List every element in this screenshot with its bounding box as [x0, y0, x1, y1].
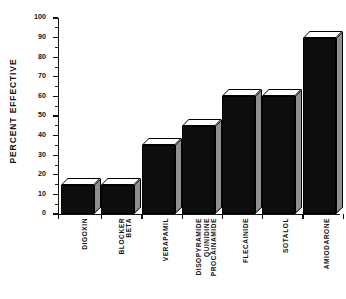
x-label-line: QUINIDINE [203, 218, 210, 257]
x-label-amiodarone: AMIODARONE [320, 218, 330, 298]
x-label-digoxin: DIGOXIN [78, 218, 88, 298]
y-minor-tick [55, 125, 58, 126]
bar-front-face [182, 126, 215, 214]
y-minor-tick [55, 86, 58, 87]
y-tick-60: 60 [53, 96, 58, 97]
bar-side-face [295, 90, 302, 214]
bar [182, 119, 215, 214]
bar-top-face [182, 119, 222, 126]
bar [222, 89, 255, 214]
x-label-beta: BETABLOCKER [114, 218, 132, 298]
y-minor-tick [55, 106, 58, 107]
bar-side-face [255, 90, 262, 214]
bar [101, 178, 134, 214]
x-label-line: BLOCKER [118, 218, 125, 254]
y-tick-label: 100 [34, 14, 46, 21]
x-tick-6 [343, 214, 344, 219]
y-axis-title-container: PERCENT EFFECTIVE [0, 0, 26, 222]
bar-side-face [175, 139, 182, 214]
y-tick-label: 20 [38, 171, 46, 178]
bar-top-face [101, 178, 141, 185]
bar-side-face [215, 119, 222, 214]
y-minor-tick [55, 67, 58, 68]
x-label-line: DIGOXIN [81, 218, 88, 250]
bar-chart-figure: PERCENT EFFECTIVE 0102030405060708090100… [0, 0, 346, 299]
x-label-sotalol: SOTALOL [279, 218, 289, 298]
y-tick-label: 0 [42, 210, 46, 217]
y-tick-70: 70 [53, 76, 58, 77]
bar-front-face [101, 185, 134, 214]
y-tick-label: 30 [38, 151, 46, 158]
bar-front-face [303, 38, 336, 214]
y-minor-tick [55, 27, 58, 28]
y-tick-10: 10 [53, 194, 58, 195]
y-minor-tick [55, 165, 58, 166]
x-label-line: PROCAINAMIDE [210, 218, 217, 276]
plot-area: 0102030405060708090100 [58, 18, 340, 215]
y-minor-tick [55, 184, 58, 185]
bar [303, 31, 336, 214]
x-axis-category-labels: DIGOXINBETABLOCKERVERAPAMILPROCAINAMIDEQ… [58, 218, 340, 299]
bar [142, 138, 175, 214]
y-minor-tick [55, 204, 58, 205]
y-tick-label: 10 [38, 190, 46, 197]
bar [61, 178, 94, 214]
y-tick-80: 80 [53, 57, 58, 58]
x-label-procainamide: PROCAINAMIDEQUINIDINEDISOPYRAMIDE [190, 218, 217, 298]
x-label-verapamil: VERAPAMIL [159, 218, 169, 298]
y-minor-tick [55, 47, 58, 48]
bar-front-face [262, 96, 295, 214]
x-label-line: SOTALOL [282, 218, 289, 253]
y-tick-30: 30 [53, 155, 58, 156]
bar [262, 89, 295, 214]
y-tick-label: 50 [38, 112, 46, 119]
y-minor-tick [55, 145, 58, 146]
y-tick-90: 90 [53, 37, 58, 38]
bar-front-face [61, 185, 94, 214]
y-tick-100: 100 [53, 17, 58, 18]
y-tick-label: 60 [38, 92, 46, 99]
y-axis-title: PERCENT EFFECTIVE [8, 58, 18, 163]
y-tick-label: 80 [38, 53, 46, 60]
bar-side-face [336, 31, 343, 214]
bar-front-face [222, 96, 255, 214]
y-tick-40: 40 [53, 135, 58, 136]
y-tick-label: 40 [38, 131, 46, 138]
x-label-flecainide: FLECAINIDE [239, 218, 249, 298]
bar-front-face [142, 145, 175, 214]
bar-top-face [303, 31, 343, 38]
x-label-line: BETA [125, 218, 132, 238]
x-label-line: FLECAINIDE [242, 218, 249, 263]
x-label-line: DISOPYRAMIDE [195, 218, 202, 276]
y-tick-label: 70 [38, 73, 46, 80]
y-tick-label: 90 [38, 33, 46, 40]
y-tick-20: 20 [53, 174, 58, 175]
x-label-line: VERAPAMIL [162, 218, 169, 261]
y-axis-line [58, 18, 59, 215]
bar-top-face [142, 138, 182, 145]
x-label-line: AMIODARONE [323, 218, 330, 269]
bar-top-face [61, 178, 101, 185]
y-tick-50: 50 [53, 115, 58, 116]
